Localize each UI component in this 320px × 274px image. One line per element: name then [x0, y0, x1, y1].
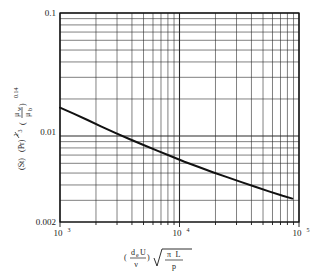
chart-background — [0, 0, 320, 274]
y-axis-pr: (Pr) — [17, 139, 26, 152]
x-tick-mantissa-2: 10 — [293, 228, 303, 238]
x-tick-exponent-2: 5 — [307, 227, 310, 233]
x-tick-mantissa-1: 10 — [173, 228, 183, 238]
y-axis-mu-denominator: μ — [23, 113, 32, 117]
y-axis-mu-exponent: 0.14 — [13, 88, 19, 99]
y-axis-paren-close: ) — [18, 103, 27, 106]
x-axis-l: L — [176, 250, 181, 259]
x-tick-exponent-1: 4 — [187, 227, 190, 233]
x-axis-pi: π — [167, 250, 171, 259]
y-axis-mu-denominator-subscript: b — [27, 108, 33, 111]
y-tick-label-0: 0.1 — [45, 8, 56, 18]
y-tick-label-2: 0.002 — [36, 217, 56, 227]
y-tick-label-1: 0.01 — [40, 127, 56, 137]
x-axis-nu: ν — [134, 260, 138, 269]
y-axis-pr-exponent-denominator: 3 — [17, 130, 23, 133]
vertical-gridlines — [60, 13, 299, 227]
x-tick-mantissa-0: 10 — [54, 228, 64, 238]
x-axis-p: p — [172, 262, 176, 271]
y-axis-mu-numerator: μ — [12, 113, 21, 117]
log-log-chart: 0.1 0.01 0.002 10 3 10 4 10 5 (St) (Pr) … — [0, 0, 320, 274]
y-axis-paren-open: ( — [18, 122, 27, 125]
x-axis-u: U — [140, 248, 146, 257]
x-axis-de-subscript: e — [136, 252, 139, 258]
x-axis-paren-close: ) — [147, 253, 150, 262]
x-tick-exponent-0: 3 — [68, 227, 71, 233]
x-axis-paren-open: ( — [124, 253, 127, 262]
y-axis-st: (St) — [17, 158, 26, 170]
x-axis-de: d — [131, 248, 135, 257]
